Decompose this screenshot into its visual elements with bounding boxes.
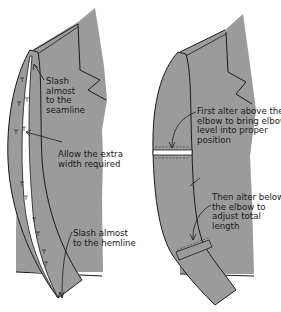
label-slash-hemline: Slash almost to the hemline [73,229,136,248]
label-alter-above-elbow: First alter above the elbow to bring elb… [197,107,281,145]
label-alter-below-elbow: Then alter below the elbow to adjust tot… [212,193,281,231]
label-allow-width: Allow the extra width required [58,150,123,169]
label-slash-seamline: Slash almost to the seamline [46,77,85,115]
diagram-drawing [0,0,281,312]
elbow-slash [153,150,192,155]
jacket-sleeve-alteration-diagram: Slash almost to the seamline Allow the e… [0,0,281,312]
